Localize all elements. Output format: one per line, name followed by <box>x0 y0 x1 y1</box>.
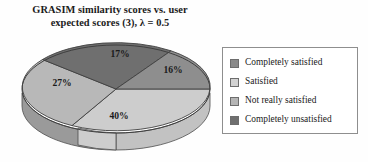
pie-label-16: 16% <box>163 64 182 75</box>
pie-label-40: 40% <box>109 110 128 121</box>
depth-slice-sliver <box>78 128 116 150</box>
pie-chart-svg: 17% 16% 40% 27% <box>16 33 216 161</box>
chart-title-line-2: expected scores (3), λ = 0.5 <box>6 16 214 29</box>
legend-item-completely-unsatisfied[interactable]: Completely unsatisfied <box>230 111 352 129</box>
legend-label-completely-unsatisfied: Completely unsatisfied <box>245 115 332 124</box>
legend-label-not-really-satisfied: Not really satisfied <box>245 96 316 105</box>
legend-item-not-really-satisfied[interactable]: Not really satisfied <box>230 92 352 110</box>
pie-chart-figure: GRASIM similarity scores vs. user expect… <box>0 0 368 162</box>
legend-label-satisfied: Satisfied <box>245 77 278 86</box>
legend-swatch-icon-completely-unsatisfied <box>230 116 239 125</box>
legend-swatch-icon-satisfied <box>230 78 239 87</box>
legend-item-completely-satisfied[interactable]: Completely satisfied <box>230 54 352 72</box>
legend-label-completely-satisfied: Completely satisfied <box>245 58 322 67</box>
chart-title-line-1: GRASIM similarity scores vs. user <box>6 3 214 16</box>
pie-plot-area: 17% 16% 40% 27% <box>16 33 216 161</box>
pie-label-17: 17% <box>110 48 129 59</box>
legend-swatch-icon-completely-satisfied <box>230 59 239 68</box>
legend-swatch-icon-not-really-satisfied <box>230 97 239 106</box>
legend-item-satisfied[interactable]: Satisfied <box>230 73 352 91</box>
chart-legend: Completely satisfied Satisfied Not reall… <box>222 47 358 134</box>
chart-title: GRASIM similarity scores vs. user expect… <box>6 3 214 29</box>
pie-label-27: 27% <box>52 77 71 88</box>
